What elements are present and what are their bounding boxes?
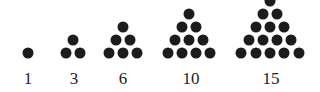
dot bbox=[243, 35, 254, 46]
dot bbox=[60, 48, 71, 59]
dot bbox=[103, 48, 114, 59]
label-3: 3 bbox=[70, 70, 79, 87]
dot bbox=[125, 35, 136, 46]
dot bbox=[265, 0, 276, 7]
dot bbox=[205, 48, 216, 59]
dot bbox=[23, 48, 34, 59]
dot bbox=[75, 48, 86, 59]
dot bbox=[257, 9, 268, 20]
dot bbox=[286, 35, 297, 46]
dot bbox=[279, 22, 290, 33]
dot bbox=[68, 35, 79, 46]
dot bbox=[265, 48, 276, 59]
dot bbox=[257, 35, 268, 46]
dot bbox=[250, 48, 261, 59]
dot bbox=[198, 35, 209, 46]
dot bbox=[250, 22, 261, 33]
dot bbox=[118, 22, 129, 33]
dot bbox=[265, 22, 276, 33]
dot bbox=[279, 48, 290, 59]
triangular-numbers-diagram: 1 3 6 10 15 bbox=[0, 0, 320, 92]
dot bbox=[191, 22, 202, 33]
label-15: 15 bbox=[263, 70, 280, 87]
dot bbox=[236, 48, 247, 59]
dot bbox=[162, 48, 173, 59]
dot bbox=[132, 48, 143, 59]
dot bbox=[169, 35, 180, 46]
dot bbox=[176, 48, 187, 59]
dot bbox=[118, 48, 129, 59]
dot bbox=[293, 48, 304, 59]
dot bbox=[272, 9, 283, 20]
dot bbox=[110, 35, 121, 46]
label-6: 6 bbox=[119, 70, 128, 87]
label-10: 10 bbox=[183, 70, 200, 87]
dot bbox=[184, 9, 195, 20]
dot bbox=[191, 48, 202, 59]
dot bbox=[184, 35, 195, 46]
dot bbox=[272, 35, 283, 46]
dot bbox=[176, 22, 187, 33]
label-1: 1 bbox=[24, 70, 33, 87]
